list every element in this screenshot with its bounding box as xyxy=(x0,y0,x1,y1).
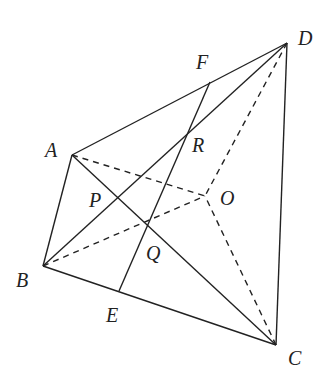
segment-cd xyxy=(276,43,287,345)
label-o: O xyxy=(220,188,234,208)
segment-bd xyxy=(43,43,287,266)
label-b: B xyxy=(16,270,28,290)
segment-ef xyxy=(119,82,210,291)
label-f: F xyxy=(196,52,208,72)
segment-ab xyxy=(43,155,72,266)
label-d: D xyxy=(298,28,312,48)
label-r: R xyxy=(192,135,204,155)
geometry-figure xyxy=(0,0,335,381)
segment-co xyxy=(205,196,276,345)
label-q: Q xyxy=(146,243,160,263)
segment-bc xyxy=(43,266,276,345)
label-c: C xyxy=(288,348,301,368)
label-a: A xyxy=(45,140,57,160)
segment-ac xyxy=(72,155,276,345)
segment-do xyxy=(205,43,287,196)
segment-ad xyxy=(72,43,287,155)
label-p: P xyxy=(89,190,101,210)
label-e: E xyxy=(106,305,118,325)
